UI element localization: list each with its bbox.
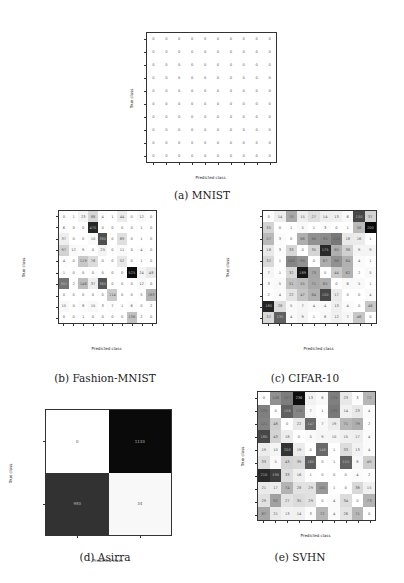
heatmap-cell: 0 <box>211 136 224 149</box>
heatmap-cell: 48 <box>146 267 156 278</box>
heatmap-cell: 7 <box>263 267 274 278</box>
heatmap-cell: 146 <box>78 278 88 289</box>
heatmap-cell: 38 <box>352 482 364 495</box>
heatmap-cell: 51 <box>286 278 297 289</box>
x-tick <box>263 521 264 523</box>
heatmap-cell: 0 <box>331 222 342 233</box>
heatmap-cell: 17 <box>352 430 364 443</box>
x-tick <box>325 324 326 326</box>
heatmap-cell: 64 <box>308 289 319 300</box>
heatmap-cell: 0 <box>263 136 276 149</box>
heatmap-cell: 39 <box>293 456 305 469</box>
x-axis-title: Predicted class <box>196 175 226 180</box>
heatmap-cell: 0 <box>107 312 117 323</box>
heatmap-cell: 43 <box>281 456 293 469</box>
heatmap-grid: 0000000000000000000000000000000000000000… <box>146 32 277 163</box>
heatmap-cell: 0 <box>160 123 173 136</box>
heatmap-cell: 0 <box>137 301 147 312</box>
heatmap-cell: 0 <box>127 245 137 256</box>
heatmap-cell: 48 <box>270 418 282 431</box>
heatmap-cell: 15 <box>340 430 352 443</box>
heatmap-cell: 0 <box>224 59 237 72</box>
heatmap-cell: 90 <box>331 256 342 267</box>
y-axis-title: True class <box>21 258 26 278</box>
heatmap-cell: 101 <box>316 482 328 495</box>
heatmap-cell: 189 <box>297 267 308 278</box>
heatmap-cell: 0 <box>211 59 224 72</box>
heatmap-cell: 1 <box>137 222 147 233</box>
heatmap-cell: 0 <box>316 456 328 469</box>
heatmap-cell: 0 <box>263 110 276 123</box>
heatmap-cell: 0 <box>127 211 137 222</box>
heatmap-cell: 37 <box>88 278 98 289</box>
heatmap-cell: 0 <box>146 222 156 233</box>
heatmap-cell: 23 <box>352 405 364 418</box>
heatmap-cell: 0 <box>186 136 199 149</box>
heatmap-cell: 4 <box>286 312 297 323</box>
heatmap-cell: 15 <box>363 482 375 495</box>
caption-svhn: (e) SVHN <box>250 551 350 563</box>
heatmap-cell: 0 <box>147 59 160 72</box>
heatmap-cell: 0 <box>98 312 108 323</box>
heatmap-cell: 44 <box>117 211 127 222</box>
heatmap-cell: 8 <box>78 301 88 312</box>
heatmap-cell: 10 <box>88 233 98 244</box>
heatmap-cell: 29 <box>305 482 317 495</box>
heatmap-cell: 0 <box>263 46 276 59</box>
heatmap-cell: 0 <box>263 211 274 222</box>
heatmap-cell: 8 <box>352 456 364 469</box>
heatmap-cell: 0 <box>146 211 156 222</box>
heatmap-cell: 0 <box>173 136 186 149</box>
heatmap-cell: 0 <box>146 233 156 244</box>
heatmap-cell: 5 <box>353 278 364 289</box>
y-tick <box>255 502 257 503</box>
heatmap-cell: 9 <box>316 430 328 443</box>
heatmap-cell: 2 <box>363 418 375 431</box>
heatmap-cell: 3 <box>320 222 331 233</box>
heatmap-cell: 0 <box>211 85 224 98</box>
heatmap-cell: 0 <box>59 312 69 323</box>
heatmap-cell: 0 <box>69 301 79 312</box>
heatmap-cell: 71 <box>352 507 364 520</box>
x-tick <box>275 521 276 523</box>
heatmap-cell: 175 <box>320 245 331 256</box>
heatmap-cell: 7 <box>316 418 328 431</box>
heatmap-cell: 14 <box>293 507 305 520</box>
heatmap-cell: 47 <box>297 289 308 300</box>
heatmap-cell: 35 <box>263 222 274 233</box>
heatmap-cell: 5 <box>297 222 308 233</box>
y-tick <box>255 515 257 516</box>
heatmap-cell: 0 <box>160 97 173 110</box>
heatmap-cell: 28 <box>274 301 285 312</box>
heatmap-cell: 55 <box>297 278 308 289</box>
heatmap-cell: 3 <box>98 301 108 312</box>
heatmap-cell: 2 <box>137 312 147 323</box>
y-tick <box>260 284 262 285</box>
heatmap-cell: 470 <box>88 222 98 233</box>
heatmap-cell: 3 <box>274 245 285 256</box>
y-axis-title: True class <box>129 88 134 108</box>
x-tick <box>103 324 104 326</box>
heatmap-cell: 0 <box>186 110 199 123</box>
heatmap-cell: 27 <box>308 211 319 222</box>
heatmap-cell: 0 <box>173 110 186 123</box>
heatmap-cell: 0 <box>224 97 237 110</box>
heatmap-cell: 0 <box>78 289 88 300</box>
heatmap-cell: 13 <box>331 211 342 222</box>
heatmap-cell: 21 <box>258 482 270 495</box>
x-tick <box>192 163 193 165</box>
heatmap-cell: 67 <box>320 256 331 267</box>
heatmap-cell: 0 <box>147 33 160 46</box>
heatmap-cell: 4 <box>98 211 108 222</box>
heatmap-cell: 29 <box>305 494 317 507</box>
heatmap-cell: 0 <box>173 72 186 85</box>
heatmap-cell: 0 <box>199 110 212 123</box>
heatmap-cell: 15 <box>59 301 69 312</box>
heatmap-cell: 62 <box>342 267 353 278</box>
heatmap-cell: 1 <box>365 256 376 267</box>
heatmap-cell: 0 <box>237 33 250 46</box>
x-tick <box>291 324 292 326</box>
x-tick <box>205 163 206 165</box>
heatmap-cell: 1 <box>342 222 353 233</box>
heatmap-cell: 180 <box>258 430 270 443</box>
